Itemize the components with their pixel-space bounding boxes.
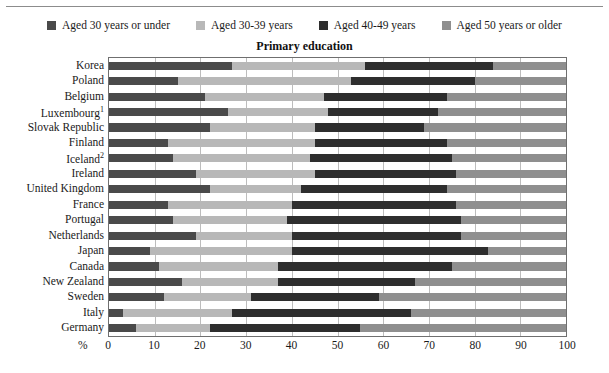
bar-row [109, 324, 566, 332]
x-axis-tick: 20 [194, 340, 206, 352]
bar-segment [109, 262, 159, 270]
bar-segment [205, 93, 324, 101]
x-axis-tick: 40 [286, 340, 298, 352]
bar-row [109, 170, 566, 178]
bar-segment [452, 262, 566, 270]
bar-row [109, 278, 566, 286]
bar-segment [447, 93, 566, 101]
y-axis-label: Sweden [0, 291, 104, 303]
bar-segment [109, 139, 168, 147]
bar-segment [351, 77, 474, 85]
bar-segment [315, 123, 425, 131]
bar-segment [324, 93, 447, 101]
y-axis-label: New Zealand [0, 276, 104, 288]
legend-item-label: Aged 30-39 years [211, 20, 293, 32]
bar-segment [411, 309, 566, 317]
bar-row [109, 154, 566, 162]
bar-row [109, 62, 566, 70]
bar-segment [178, 77, 352, 85]
bar-segment [109, 108, 228, 116]
bar-segment [461, 216, 566, 224]
bar-row [109, 309, 566, 317]
y-axis-label: Belgium [0, 91, 104, 103]
legend-item: Aged 50 years or older [442, 20, 562, 32]
y-axis-label: Canada [0, 261, 104, 273]
y-axis-labels: KoreaPolandBelgiumLuxembourg1Slovak Repu… [0, 57, 104, 337]
y-axis-label: Japan [0, 245, 104, 257]
x-axis-tick: 100 [558, 340, 575, 352]
bar-segment [109, 201, 168, 209]
chart-legend: Aged 30 years or underAged 30-39 yearsAg… [0, 20, 609, 32]
x-axis-tick: 60 [378, 340, 390, 352]
y-axis-label-footnote: 1 [100, 105, 104, 114]
bar-segment [182, 278, 278, 286]
x-axis-tick: 10 [148, 340, 160, 352]
bar-segment [109, 232, 196, 240]
legend-item-label: Aged 50 years or older [457, 20, 562, 32]
bar-segment [232, 309, 410, 317]
bar-segment [109, 293, 164, 301]
bar-segment [196, 232, 292, 240]
bar-segment [168, 139, 314, 147]
bar-segment [228, 108, 329, 116]
x-axis-tick: 30 [240, 340, 252, 352]
bar-segment [461, 232, 566, 240]
legend-item-label: Aged 40-49 years [334, 20, 416, 32]
bar-segment [301, 185, 447, 193]
bar-segment [196, 170, 315, 178]
bar-rows [109, 58, 566, 336]
bar-segment [292, 232, 461, 240]
bar-segment [447, 139, 566, 147]
bar-row [109, 216, 566, 224]
bar-segment [173, 216, 287, 224]
bar-segment [287, 216, 461, 224]
legend-swatch-aged-30-39 [196, 21, 205, 30]
bar-segment [292, 247, 489, 255]
bar-segment [456, 170, 566, 178]
bar-segment [109, 123, 210, 131]
bar-segment [109, 154, 173, 162]
bar-segment [278, 262, 452, 270]
y-axis-label: France [0, 199, 104, 211]
y-axis-label: Iceland2 [0, 152, 104, 165]
bar-row [109, 139, 566, 147]
y-axis-label: Korea [0, 60, 104, 72]
bar-segment [292, 201, 457, 209]
bar-segment [109, 77, 178, 85]
bar-segment [232, 62, 365, 70]
bar-row [109, 108, 566, 116]
bar-segment [438, 108, 566, 116]
bar-segment [109, 324, 136, 332]
legend-swatch-aged-50-or-older [442, 21, 451, 30]
bar-segment [168, 201, 291, 209]
bar-segment [379, 293, 566, 301]
bar-segment [164, 293, 251, 301]
bar-segment [415, 278, 566, 286]
legend-item-label: Aged 30 years or under [62, 20, 170, 32]
bar-segment [365, 62, 493, 70]
y-axis-label: Portugal [0, 214, 104, 226]
legend-item: Aged 30-39 years [196, 20, 293, 32]
percent-axis-label: % [78, 340, 88, 352]
y-axis-label: Italy [0, 307, 104, 319]
y-axis-label: Finland [0, 137, 104, 149]
bar-row [109, 232, 566, 240]
bar-segment [475, 77, 566, 85]
y-axis-label: Poland [0, 75, 104, 87]
plot-area [108, 57, 567, 337]
bar-row [109, 77, 566, 85]
bar-segment [109, 93, 205, 101]
bar-segment [210, 324, 361, 332]
bar-row [109, 185, 566, 193]
y-axis-label: Germany [0, 322, 104, 334]
bar-segment [109, 185, 210, 193]
bar-segment [493, 62, 566, 70]
x-axis-tick: 70 [424, 340, 436, 352]
bar-segment [109, 247, 150, 255]
bar-segment [150, 247, 292, 255]
x-axis-tick: 50 [332, 340, 344, 352]
bar-segment [456, 201, 566, 209]
bar-row [109, 93, 566, 101]
x-axis-tick: 90 [515, 340, 527, 352]
bar-segment [109, 309, 123, 317]
